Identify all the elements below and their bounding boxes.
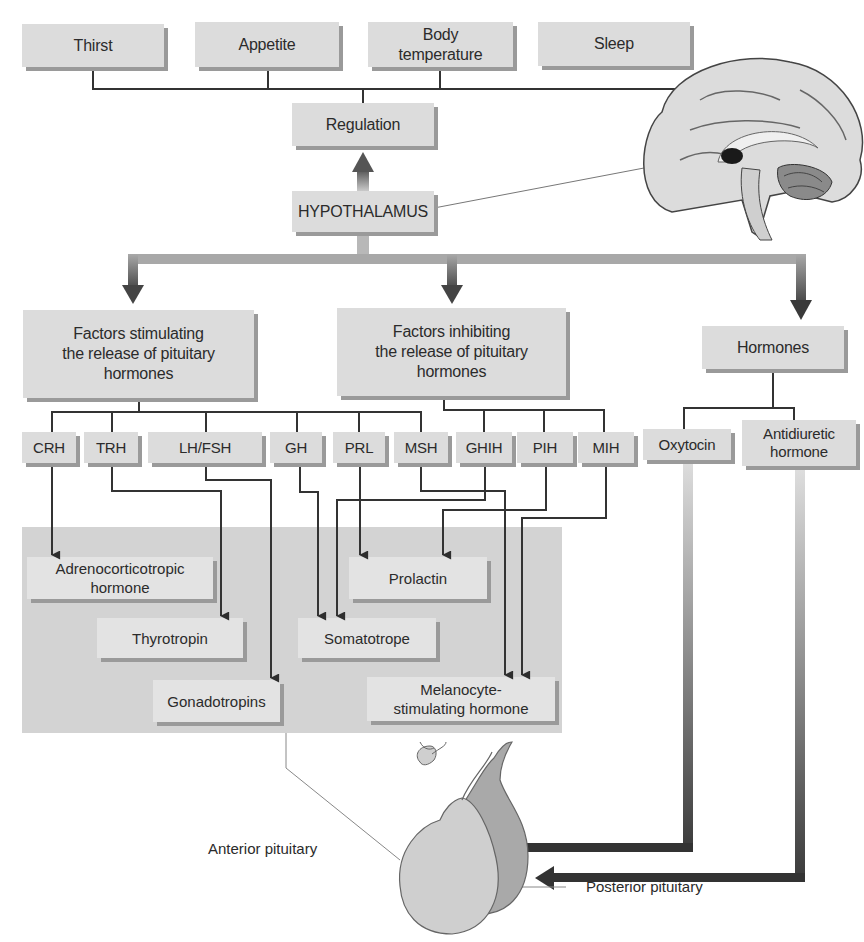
anterior-pituitary-label: Anterior pituitary xyxy=(208,840,317,857)
oxytocin-label: Oxytocin xyxy=(659,436,716,454)
inhibiting-label-line1: Factors inhibiting xyxy=(393,322,510,342)
regulation-label: Regulation xyxy=(326,115,401,135)
thyrotropin-label: Thyrotropin xyxy=(132,629,208,648)
melanocyte-label-line2: stimulating hormone xyxy=(393,699,528,718)
hypothalamus-distribution-bar xyxy=(122,228,812,320)
msh-box: MSH xyxy=(394,432,448,463)
prl-label: PRL xyxy=(345,439,374,457)
sleep-label: Sleep xyxy=(594,34,634,54)
stimulating-label-line3: hormones xyxy=(104,364,174,384)
posterior-pituitary-label: Posterior pituitary xyxy=(586,878,703,895)
hormones-label: Hormones xyxy=(737,338,809,358)
stimulating-label-line1: Factors stimulating xyxy=(73,324,203,344)
ghih-box: GHIH xyxy=(456,432,512,463)
pih-label: PIH xyxy=(533,439,557,457)
crh-box: CRH xyxy=(22,432,76,463)
adh-arrow xyxy=(535,468,805,890)
inhibiting-label-line2: the release of pituitary xyxy=(375,342,528,362)
body-temperature-box: Body temperature xyxy=(368,22,513,67)
body-temperature-label-line1: Body xyxy=(423,25,459,45)
prolactin-label: Prolactin xyxy=(389,569,447,588)
stimulating-factors-box: Factors stimulating the release of pitui… xyxy=(23,310,254,398)
thirst-box: Thirst xyxy=(22,24,164,67)
gh-label: GH xyxy=(285,439,307,457)
inhibiting-connectors xyxy=(444,396,604,432)
melanocyte-box: Melanocyte- stimulating hormone xyxy=(367,677,555,721)
appetite-box: Appetite xyxy=(195,22,339,67)
melanocyte-label-line1: Melanocyte- xyxy=(420,680,502,699)
hypothalamus-box: HYPOTHALAMUS xyxy=(292,191,434,232)
body-temperature-label-line2: temperature xyxy=(398,45,482,65)
appetite-label: Appetite xyxy=(238,35,295,55)
msh-label: MSH xyxy=(405,439,438,457)
thyrotropin-box: Thyrotropin xyxy=(97,618,243,658)
crh-label: CRH xyxy=(33,439,65,457)
prolactin-box: Prolactin xyxy=(349,557,487,599)
stimulating-label-line2: the release of pituitary xyxy=(62,344,215,364)
stimulating-connectors xyxy=(52,398,421,432)
adh-label-line1: Antidiuretic xyxy=(763,425,835,443)
thirst-label: Thirst xyxy=(74,36,113,56)
prl-box: PRL xyxy=(333,432,385,463)
adh-label-line2: hormone xyxy=(770,443,828,461)
adh-box: Antidiuretic hormone xyxy=(742,420,856,466)
mih-box: MIH xyxy=(578,432,634,463)
sleep-box: Sleep xyxy=(538,22,690,66)
acth-label-line2: hormone xyxy=(90,578,149,597)
mih-label: MIH xyxy=(593,439,620,457)
somatotrope-label: Somatotrope xyxy=(324,629,410,648)
trh-label: TRH xyxy=(96,439,126,457)
regulation-box: Regulation xyxy=(292,103,434,146)
lhfsh-box: LH/FSH xyxy=(148,432,262,463)
gh-box: GH xyxy=(270,432,322,463)
hormones-box: Hormones xyxy=(702,326,844,369)
inhibiting-factors-box: Factors inhibiting the release of pituit… xyxy=(337,308,566,396)
inhibiting-label-line3: hormones xyxy=(417,362,487,382)
ghih-label: GHIH xyxy=(466,439,503,457)
trh-box: TRH xyxy=(84,432,138,463)
somatotrope-box: Somatotrope xyxy=(298,618,436,658)
acth-label-line1: Adrenocorticotropic xyxy=(55,559,184,578)
oxytocin-box: Oxytocin xyxy=(643,429,731,460)
hypothalamus-to-regulation-arrow xyxy=(352,152,374,192)
gonadotropins-box: Gonadotropins xyxy=(153,680,280,722)
gonadotropins-label: Gonadotropins xyxy=(167,692,265,711)
pituitary-illustration xyxy=(400,742,528,934)
brain-illustration xyxy=(644,59,863,240)
pih-box: PIH xyxy=(517,432,573,463)
acth-box: Adrenocorticotropic hormone xyxy=(27,557,213,599)
lhfsh-label: LH/FSH xyxy=(179,439,231,457)
hypothalamus-label: HYPOTHALAMUS xyxy=(298,202,428,222)
